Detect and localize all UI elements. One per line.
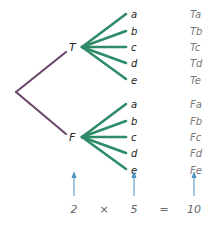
T-leaf-labels: a b c d e <box>131 9 138 86</box>
outcome-Fd: Fd <box>190 148 203 159</box>
equation-row: 2 × 5 = 10 <box>71 203 202 216</box>
outcome-Fa: Fa <box>190 99 202 110</box>
outcome-Ta: Ta <box>190 9 201 20</box>
leaf-T-c: c <box>131 42 137 53</box>
T-fan-branches <box>82 14 126 79</box>
outcome-Td: Td <box>190 58 203 69</box>
branch-T-d <box>82 47 126 63</box>
outcome-Tb: Tb <box>190 26 202 37</box>
equation-second-factor: 5 <box>131 203 138 216</box>
tree-diagram: T F a b c d e a b c d e Ta Tb Tc Td Te <box>0 0 218 225</box>
branch-root-to-T <box>16 52 66 92</box>
leaf-T-b: b <box>131 26 137 37</box>
outcome-Te: Te <box>190 75 201 86</box>
leaf-T-d: d <box>131 58 138 69</box>
arrows <box>72 171 197 196</box>
branch-F-b <box>82 121 126 137</box>
leaf-T-e: e <box>131 75 137 86</box>
branch-T-e <box>82 47 126 79</box>
outcome-Fb: Fb <box>190 116 202 127</box>
leaf-F-d: d <box>131 148 138 159</box>
branch-F-e <box>82 137 126 169</box>
branch-T-a <box>82 14 126 47</box>
node-F-label: F <box>69 131 76 144</box>
equation-equals-sign: = <box>159 203 168 216</box>
leaf-F-a: a <box>131 99 137 110</box>
node-T-label: T <box>69 41 77 54</box>
leaf-T-a: a <box>131 9 137 20</box>
arrow-up-icon <box>72 171 77 196</box>
outcome-Fe: Fe <box>190 165 202 176</box>
branch-T-b <box>82 31 126 47</box>
branch-root-to-F <box>16 92 66 134</box>
branch-F-a <box>82 104 126 137</box>
leaf-F-b: b <box>131 116 137 127</box>
outcome-labels: Ta Tb Tc Td Te Fa Fb Fc Fd Fe <box>190 9 203 176</box>
equation-times-sign: × <box>99 203 108 216</box>
outcome-Tc: Tc <box>190 42 201 53</box>
leaf-F-c: c <box>131 132 137 143</box>
F-leaf-labels: a b c d e <box>131 99 138 176</box>
branch-F-d <box>82 137 126 153</box>
equation-first-factor: 2 <box>71 203 78 216</box>
outcome-Fc: Fc <box>190 132 202 143</box>
equation-result: 10 <box>187 203 201 216</box>
F-fan-branches <box>82 104 126 169</box>
root-branches <box>16 52 66 134</box>
